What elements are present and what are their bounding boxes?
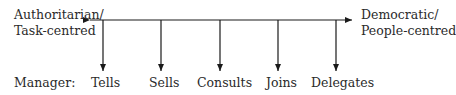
manager-row-label: Manager:: [14, 75, 75, 91]
left-pole-label: Authoritarian/ Task-centred: [14, 7, 104, 39]
behaviour-sells: Sells: [149, 75, 179, 91]
behaviour-consults: Consults: [197, 75, 252, 91]
left-pole-line1: Authoritarian/: [14, 7, 104, 23]
right-pole-label: Democratic/ People-centred: [361, 7, 456, 39]
behaviour-joins: Joins: [266, 75, 297, 91]
behaviour-delegates: Delegates: [311, 75, 374, 91]
right-pole-line1: Democratic/: [361, 7, 456, 23]
behaviour-tells: Tells: [91, 75, 120, 91]
right-pole-line2: People-centred: [361, 23, 456, 39]
left-pole-line2: Task-centred: [14, 23, 104, 39]
